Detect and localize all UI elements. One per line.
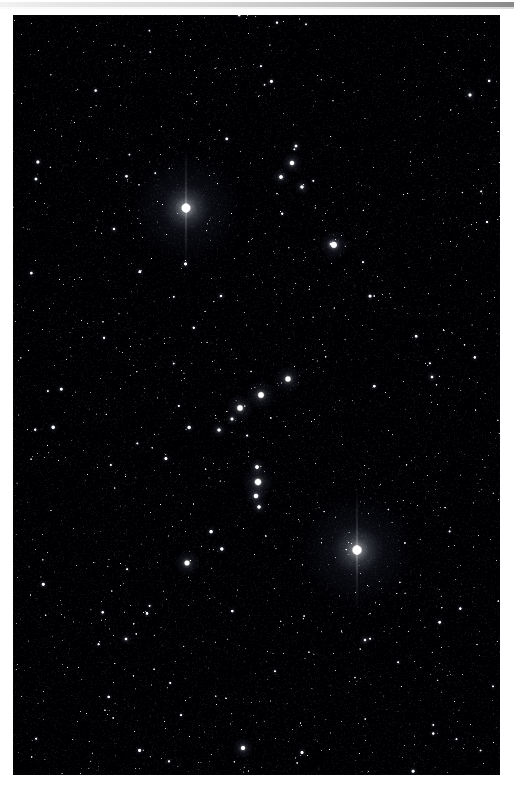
photograph-frame [0, 0, 514, 790]
scan-band-top-secondary [0, 7, 514, 9]
star-field-canvas [13, 15, 500, 775]
night-sky-image [13, 15, 500, 775]
